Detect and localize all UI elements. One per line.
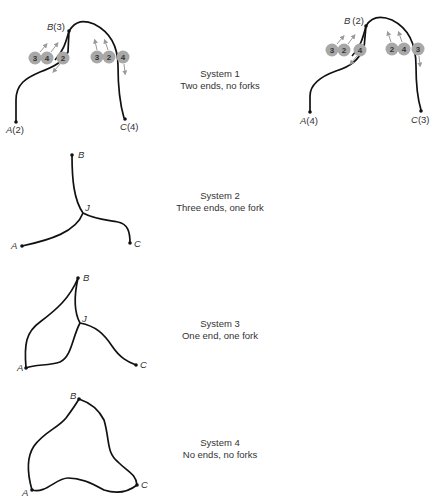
svg-text:A: A: [21, 487, 28, 498]
svg-text:B(2): B(2): [344, 15, 364, 26]
system1-left-diagram: 3 4 2 3 2 4 B(3) A(2) C(4): [5, 21, 139, 135]
system3-diagram: B J A C: [16, 272, 147, 373]
svg-text:C: C: [140, 359, 147, 370]
node-b-label: B(3): [47, 21, 65, 32]
svg-text:4: 4: [45, 54, 50, 63]
svg-text:3: 3: [330, 46, 335, 55]
system2-subtitle: Three ends, one fork: [150, 202, 290, 214]
system3-caption: System 3 One end, one fork: [150, 318, 290, 342]
svg-text:B: B: [78, 149, 85, 160]
wire-path: [16, 22, 124, 122]
system1-caption: System 1 Two ends, no forks: [150, 68, 290, 92]
svg-text:2: 2: [390, 45, 395, 54]
svg-text:A(4): A(4): [299, 115, 318, 126]
svg-text:B: B: [83, 272, 90, 283]
svg-text:A: A: [16, 362, 23, 373]
system1-subtitle: Two ends, no forks: [150, 80, 290, 92]
system2-title: System 2: [150, 190, 290, 202]
svg-text:2: 2: [61, 54, 66, 63]
system3-subtitle: One end, one fork: [150, 330, 290, 342]
system4-title: System 4: [150, 437, 290, 449]
system3-title: System 3: [150, 318, 290, 330]
svg-text:3: 3: [95, 53, 100, 62]
svg-text:C: C: [134, 238, 141, 249]
node-b-dot: [67, 29, 71, 33]
right-charge-cluster: 2 4 3: [386, 33, 425, 65]
svg-text:4: 4: [121, 53, 126, 62]
system1-title: System 1: [150, 68, 290, 80]
right-charge-cluster: 3 2 4: [91, 41, 130, 73]
system4-diagram: B A C: [21, 390, 148, 498]
svg-text:3: 3: [33, 54, 38, 63]
svg-text:A: A: [10, 240, 17, 251]
svg-text:2: 2: [107, 53, 112, 62]
system4-subtitle: No ends, no forks: [150, 449, 290, 461]
system4-caption: System 4 No ends, no forks: [150, 437, 290, 461]
system2-diagram: B J A C: [10, 149, 141, 251]
svg-text:C: C: [141, 479, 148, 490]
system2-caption: System 2 Three ends, one fork: [150, 190, 290, 214]
svg-text:C(3): C(3): [411, 114, 430, 125]
left-charge-cluster: 3 2 4: [326, 36, 367, 63]
svg-text:4: 4: [358, 46, 363, 55]
svg-text:B: B: [70, 390, 77, 401]
system1-right-diagram: 3 2 4 2 4 3 B(2) A(4) C(3): [299, 15, 430, 126]
svg-text:4: 4: [402, 45, 407, 54]
node-a-label: A(2): [5, 124, 24, 135]
svg-text:J: J: [84, 202, 90, 213]
node-c-label: C(4): [120, 121, 139, 132]
svg-text:3: 3: [416, 45, 421, 54]
svg-text:J: J: [81, 313, 87, 324]
svg-text:2: 2: [342, 46, 347, 55]
